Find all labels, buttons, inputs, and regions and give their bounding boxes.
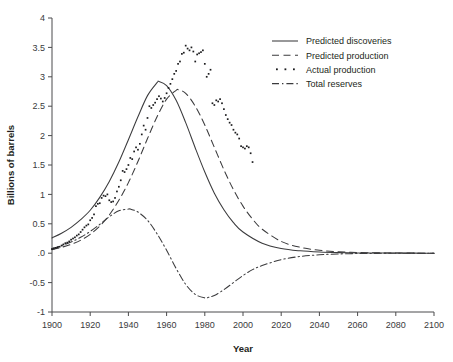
data-point [68, 241, 70, 243]
x-tick-label: 2060 [348, 320, 368, 330]
data-point [240, 145, 242, 147]
data-point [177, 63, 179, 65]
data-point [185, 45, 187, 47]
data-point [116, 191, 118, 193]
legend-swatch-dot [285, 68, 287, 70]
data-point [215, 99, 217, 101]
data-point [86, 225, 88, 227]
data-point [118, 186, 120, 188]
legend-swatch-dot [276, 68, 278, 70]
data-point [248, 147, 250, 149]
data-point [227, 118, 229, 120]
y-tick-label: 2.5 [32, 101, 45, 111]
y-tick-label: 1.5 [32, 160, 45, 170]
data-point [214, 104, 216, 106]
data-point [225, 114, 227, 116]
data-point [202, 49, 204, 51]
data-point [150, 107, 152, 109]
data-point [107, 194, 109, 196]
data-point [162, 101, 164, 103]
data-point [223, 108, 225, 110]
data-point [105, 195, 107, 197]
data-point [135, 147, 137, 149]
data-point [181, 53, 183, 55]
data-point [204, 63, 206, 65]
data-point [76, 235, 78, 237]
data-point [66, 242, 68, 244]
data-point [236, 134, 238, 136]
data-point [164, 97, 166, 99]
data-point [63, 244, 65, 246]
x-axis-tick-labels: 1900192019401960198020002020204020602080… [42, 320, 444, 330]
data-point [242, 147, 244, 149]
x-tick-label: 1940 [118, 320, 138, 330]
data-point [179, 61, 181, 63]
data-point [233, 129, 235, 131]
data-point [152, 104, 154, 106]
data-point [231, 124, 233, 126]
x-tick-label: 1920 [80, 320, 100, 330]
data-point [173, 73, 175, 75]
data-point [235, 132, 237, 134]
y-tick-label: 1 [40, 190, 45, 200]
data-point [72, 238, 74, 240]
y-axis-ticks [48, 18, 52, 312]
y-tick-label: -0.5 [29, 278, 45, 288]
data-point [200, 51, 202, 53]
y-tick-label: -1 [37, 307, 45, 317]
data-point [160, 98, 162, 100]
y-tick-label: 3 [40, 72, 45, 82]
data-point [124, 171, 126, 173]
data-point [61, 245, 63, 247]
data-point [221, 102, 223, 104]
data-point [229, 122, 231, 124]
data-point [70, 239, 72, 241]
x-tick-label: 1960 [157, 320, 177, 330]
data-point [145, 129, 147, 131]
data-point [95, 205, 97, 207]
legend-label: Actual production [306, 65, 376, 75]
legend-label: Predicted discoveries [306, 36, 392, 46]
data-point [91, 217, 93, 219]
x-tick-label: 2000 [233, 320, 253, 330]
legend-label: Total reserves [306, 79, 363, 89]
data-point [112, 201, 114, 203]
data-point [103, 195, 105, 197]
data-point [101, 197, 103, 199]
y-tick-label: 0.5 [32, 219, 45, 229]
x-axis-title: Year [233, 343, 253, 354]
data-point [187, 48, 189, 50]
series-dashed [52, 89, 434, 253]
data-point [55, 247, 57, 249]
data-point [51, 248, 53, 250]
data-point [93, 214, 95, 216]
y-tick-label: 3.5 [32, 43, 45, 53]
y-axis-title: Billions of barrels [5, 125, 16, 205]
data-point [97, 203, 99, 205]
data-point [219, 98, 221, 100]
y-tick-label: 2 [40, 131, 45, 141]
data-point [137, 149, 139, 151]
x-tick-label: 1980 [195, 320, 215, 330]
data-point [250, 152, 252, 154]
data-point [208, 73, 210, 75]
data-point [198, 52, 200, 54]
y-tick-label: 4 [40, 13, 45, 23]
data-point [133, 151, 135, 153]
data-point [168, 87, 170, 89]
data-point [110, 201, 112, 203]
data-point [114, 197, 116, 199]
data-point [99, 202, 101, 204]
data-point [189, 49, 191, 51]
x-tick-label: 2080 [386, 320, 406, 330]
data-point [191, 47, 193, 49]
data-point [59, 246, 61, 248]
data-point [84, 226, 86, 228]
data-point [89, 219, 91, 221]
data-point [80, 231, 82, 233]
data-point [120, 179, 122, 181]
data-point [154, 102, 156, 104]
data-point [244, 148, 246, 150]
x-tick-label: 2040 [309, 320, 329, 330]
series-layer [52, 81, 434, 298]
